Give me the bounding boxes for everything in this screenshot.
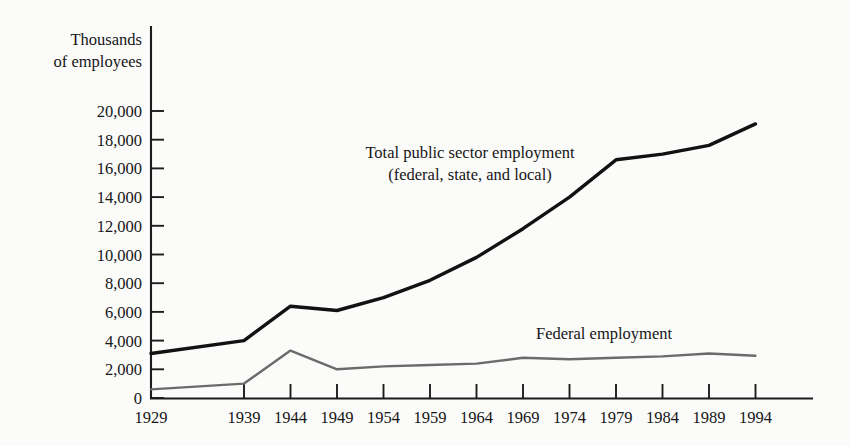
y-tick-label: 8,000 xyxy=(105,274,142,293)
y-tick-label: 6,000 xyxy=(105,303,142,322)
x-tick-label: 1984 xyxy=(646,408,679,427)
x-tick-label: 1974 xyxy=(553,408,586,427)
x-tick-label: 1954 xyxy=(367,408,400,427)
x-axis-ticks: 1929193919441949195419591964196919741979… xyxy=(135,384,773,427)
x-tick-label: 1959 xyxy=(414,408,447,427)
x-tick-label: 1949 xyxy=(321,408,354,427)
y-tick-label: 14,000 xyxy=(97,188,142,207)
x-tick-label: 1989 xyxy=(693,408,726,427)
y-tick-label: 0 xyxy=(134,389,142,408)
x-tick-label: 1994 xyxy=(739,408,772,427)
x-tick-label: 1929 xyxy=(135,408,168,427)
y-tick-label: 18,000 xyxy=(97,131,142,150)
y-tick-label: 16,000 xyxy=(97,159,142,178)
x-tick-label: 1939 xyxy=(228,408,261,427)
annotation-total-public-sector-line1: Total public sector employment xyxy=(365,143,575,162)
y-axis-title-line1: Thousands xyxy=(71,30,143,49)
y-tick-label: 4,000 xyxy=(105,332,142,351)
line-chart-canvas: Thousands of employees 20,00018,00016,00… xyxy=(0,0,850,446)
series-line-federal-employment xyxy=(151,351,756,390)
y-tick-label: 2,000 xyxy=(105,360,142,379)
y-axis-title-line2: of employees xyxy=(54,52,142,71)
y-axis-ticks: 20,00018,00016,00014,00012,00010,0008,00… xyxy=(97,102,164,408)
x-tick-label: 1979 xyxy=(600,408,633,427)
y-tick-label: 20,000 xyxy=(97,102,142,121)
y-tick-label: 10,000 xyxy=(97,246,142,265)
annotation-federal-employment: Federal employment xyxy=(536,324,673,343)
x-tick-label: 1969 xyxy=(507,408,540,427)
y-tick-label: 12,000 xyxy=(97,217,142,236)
chart-figure: Thousands of employees 20,00018,00016,00… xyxy=(0,0,850,446)
annotation-total-public-sector-line2: (federal, state, and local) xyxy=(388,165,552,184)
x-tick-label: 1964 xyxy=(460,408,493,427)
x-tick-label: 1944 xyxy=(274,408,307,427)
